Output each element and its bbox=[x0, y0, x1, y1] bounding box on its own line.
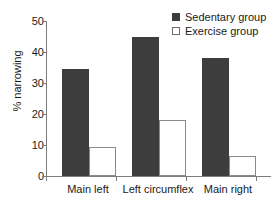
x-tick-label-main-right: Main right bbox=[178, 183, 278, 196]
x-tick-mark-0 bbox=[46, 177, 47, 181]
y-tick-mark-20 bbox=[42, 114, 46, 115]
legend-label-exercise-group: Exercise group bbox=[185, 25, 258, 37]
y-tick-mark-30 bbox=[42, 83, 46, 84]
bar-sedentary-left-circumflex bbox=[132, 37, 159, 177]
y-tick-label-30: 30 bbox=[2, 78, 44, 89]
bar-exercise-main-left bbox=[89, 147, 116, 176]
bar-exercise-main-right bbox=[229, 156, 256, 176]
bar-chart-figure: % narrowing 50 40 30 20 10 0 Main l bbox=[0, 0, 278, 213]
y-tick-label-50: 50 bbox=[2, 16, 44, 27]
x-tick-mark-1 bbox=[116, 177, 117, 181]
legend-item-sedentary-group: Sedentary group bbox=[172, 10, 278, 23]
plot-area bbox=[46, 21, 271, 176]
bar-exercise-left-circumflex bbox=[159, 120, 186, 176]
legend-label-sedentary-group: Sedentary group bbox=[185, 11, 266, 23]
bar-sedentary-main-left bbox=[62, 69, 89, 176]
x-axis-tick-labels: Main left Left circumflex Main right bbox=[46, 183, 271, 199]
y-tick-mark-50 bbox=[42, 21, 46, 22]
y-tick-label-0: 0 bbox=[2, 171, 44, 182]
x-tick-mark-2 bbox=[186, 177, 187, 181]
legend-item-exercise-group: Exercise group bbox=[172, 24, 278, 37]
y-axis-line bbox=[46, 21, 47, 177]
bar-sedentary-main-right bbox=[202, 58, 229, 176]
y-tick-label-20: 20 bbox=[2, 109, 44, 120]
chart-legend: Sedentary group Exercise group bbox=[172, 10, 278, 38]
y-axis-tick-labels: 50 40 30 20 10 0 bbox=[0, 0, 44, 213]
legend-swatch-filled-square-icon bbox=[172, 13, 180, 21]
y-tick-label-10: 10 bbox=[2, 140, 44, 151]
legend-swatch-open-square-icon bbox=[172, 27, 180, 35]
x-axis-line bbox=[46, 176, 271, 177]
y-tick-label-40: 40 bbox=[2, 47, 44, 58]
y-tick-mark-10 bbox=[42, 145, 46, 146]
y-tick-mark-40 bbox=[42, 52, 46, 53]
x-tick-mark-3 bbox=[256, 177, 257, 181]
